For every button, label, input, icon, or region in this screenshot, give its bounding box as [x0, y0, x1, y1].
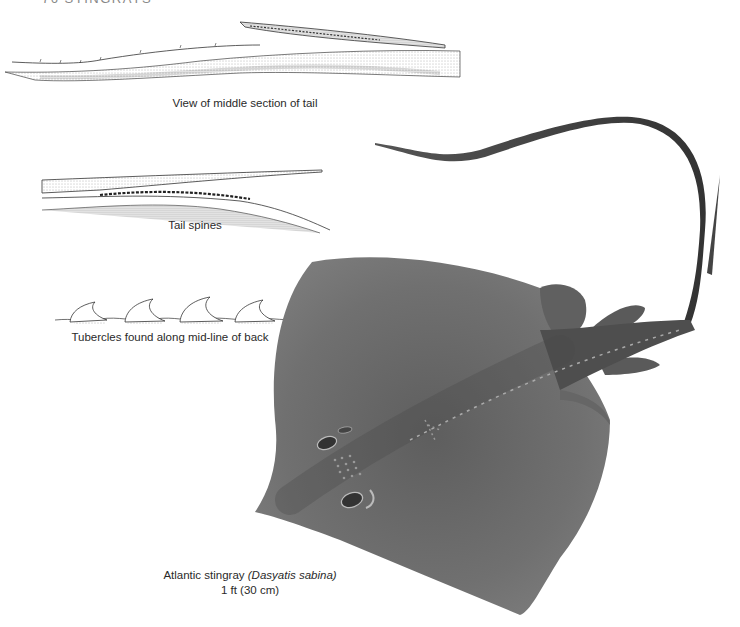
size-label: 1 ft (30 cm) [221, 584, 279, 596]
scientific-name: (Dasyatis sabina) [248, 569, 337, 581]
caption-atlantic-stingray: Atlantic stingray (Dasyatis sabina) 1 ft… [120, 568, 380, 598]
stingray-illustration [0, 0, 740, 627]
common-name: Atlantic stingray [163, 569, 244, 581]
